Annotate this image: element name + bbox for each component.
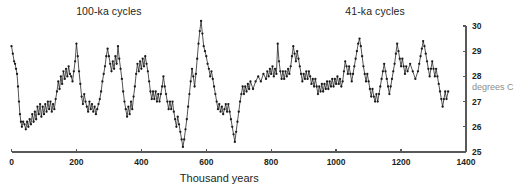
annotation-100ka-cycles: 100-ka cycles [76, 5, 142, 17]
y-tick-label-30: 30 [472, 21, 481, 31]
y-tick-label-25: 25 [472, 147, 481, 157]
data-series-line [12, 21, 449, 147]
x-tick-label-1400: 1400 [457, 157, 476, 167]
data-point-markers [10, 20, 449, 148]
x-tick-label-1200: 1200 [392, 157, 411, 167]
y-tick-label-26: 26 [472, 122, 481, 132]
x-tick-label-200: 200 [69, 157, 83, 167]
annotation-41ka-cycles: 41-ka cycles [345, 5, 405, 17]
y-tick-label-27: 27 [472, 97, 481, 107]
y-axis-unit-label: degrees C [472, 82, 514, 92]
x-tick-label-1000: 1000 [327, 157, 346, 167]
y-tick-label-29: 29 [472, 46, 481, 56]
x-tick-label-800: 800 [264, 157, 278, 167]
x-tick-label-600: 600 [199, 157, 213, 167]
y-tick-label-28: 28 [472, 71, 481, 81]
x-tick-label-0: 0 [9, 157, 14, 167]
x-tick-label-400: 400 [134, 157, 148, 167]
x-axis-title: Thousand years [180, 172, 259, 184]
chart-axes [12, 26, 467, 152]
